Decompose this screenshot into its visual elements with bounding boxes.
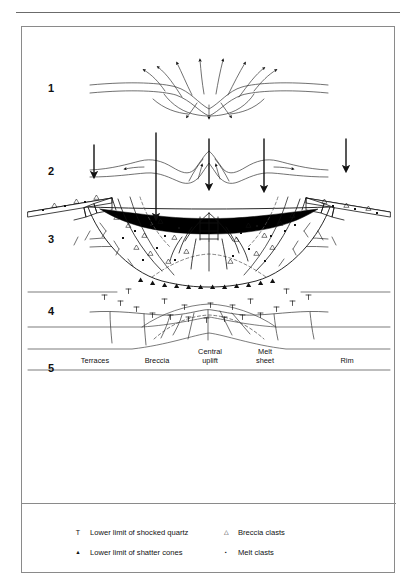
top-rule-divider — [16, 12, 400, 13]
stage-5-drawing — [28, 133, 390, 370]
stage-number-2: 2 — [48, 165, 54, 177]
legend-item-breccia-clasts: △ Breccia clasts — [218, 528, 285, 537]
stage-number-5: 5 — [48, 362, 54, 374]
tee-symbol-icon: T — [70, 529, 86, 536]
stage-number-1: 1 — [48, 82, 54, 94]
open-triangle-symbol-icon: △ — [218, 530, 234, 536]
figure-frame: 1 2 3 4 5 Terraces Breccia Central uplif… — [21, 26, 395, 573]
stage-number-4: 4 — [48, 305, 54, 317]
label-terraces: Terraces — [68, 357, 122, 366]
legend-label-melt-clasts: Melt clasts — [238, 548, 274, 557]
label-rim: Rim — [320, 357, 374, 366]
stage-1-drawing — [90, 60, 328, 118]
stage-number-3: 3 — [48, 233, 54, 245]
crater-formation-diagram — [22, 27, 396, 574]
small-square-symbol-icon: ▪ — [218, 550, 234, 555]
label-central-uplift: Central uplift — [183, 348, 237, 365]
legend-item-melt-clasts: ▪ Melt clasts — [218, 548, 274, 557]
legend: T Lower limit of shocked quartz ▲ Lower … — [22, 504, 396, 574]
legend-label-breccia-clasts: Breccia clasts — [238, 528, 285, 537]
small-triangle-symbol-icon: ▲ — [70, 550, 86, 556]
figure-page: 1 2 3 4 5 Terraces Breccia Central uplif… — [0, 0, 416, 586]
legend-label-shocked-quartz: Lower limit of shocked quartz — [90, 528, 188, 537]
legend-label-shatter-cones: Lower limit of shatter cones — [90, 548, 182, 557]
legend-item-shocked-quartz: T Lower limit of shocked quartz — [70, 528, 188, 537]
label-breccia: Breccia — [130, 357, 184, 366]
label-melt-sheet: Melt sheet — [238, 348, 292, 365]
legend-item-shatter-cones: ▲ Lower limit of shatter cones — [70, 548, 182, 557]
